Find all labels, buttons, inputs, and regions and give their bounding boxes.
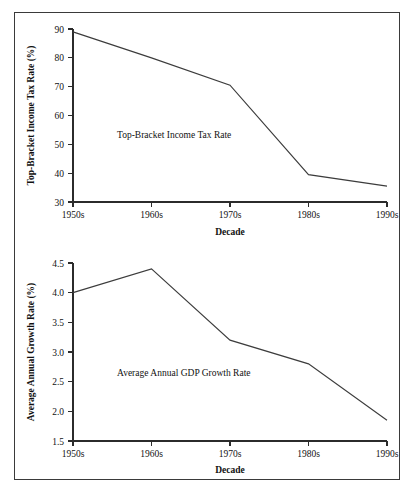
x-tick-label-top-4: 1990s xyxy=(376,210,399,220)
y-tick-label-top-2: 50 xyxy=(55,140,65,150)
y-axis-title-top: Top-Bracket Income Tax Rate (%) xyxy=(26,45,37,185)
data-series-average-annual-gdp-growth-rate xyxy=(73,269,387,420)
x-tick-label-bottom-4: 1990s xyxy=(376,449,399,459)
x-tick-label-top-0: 1950s xyxy=(62,210,85,220)
y-tick-label-top-5: 80 xyxy=(55,53,65,63)
y-tick-label-top-4: 70 xyxy=(55,82,65,92)
chart-top-svg: 90 80 70 60 50 40 30 1950s 1960s 19 xyxy=(15,13,401,247)
x-tick-label-top-3: 1980s xyxy=(297,210,320,220)
y-ticks-top xyxy=(68,29,73,202)
y-tick-label-top-0: 30 xyxy=(55,198,65,208)
chart-average-annual-gdp-growth-rate: 4.5 4.0 3.5 3.0 2.5 2.0 1.5 1950s 1960s xyxy=(15,247,401,479)
x-ticks-bottom xyxy=(73,441,387,446)
x-axis-title-top: Decade xyxy=(215,227,245,237)
y-tick-label-bottom-3: 3.0 xyxy=(52,348,64,358)
y-tick-label-top-3: 60 xyxy=(55,111,65,121)
y-tick-label-bottom-5: 4.0 xyxy=(52,288,64,298)
x-tick-label-bottom-0: 1950s xyxy=(62,449,85,459)
x-axis-title-bottom: Decade xyxy=(215,465,245,475)
series-annotation-top: Top-Bracket Income Tax Rate xyxy=(117,130,231,140)
x-tick-label-bottom-3: 1980s xyxy=(297,449,320,459)
x-tick-label-bottom-1: 1960s xyxy=(140,449,163,459)
x-tick-label-top-1: 1960s xyxy=(140,210,163,220)
series-annotation-bottom: Average Annual GDP Growth Rate xyxy=(117,368,251,378)
y-tick-label-bottom-2: 2.5 xyxy=(52,377,64,387)
y-tick-label-bottom-1: 2.0 xyxy=(52,407,64,417)
y-tick-label-bottom-4: 3.5 xyxy=(52,318,64,328)
x-tick-label-top-2: 1970s xyxy=(219,210,242,220)
figure-frame: 90 80 70 60 50 40 30 1950s 1960s 19 xyxy=(14,12,400,480)
data-series-top-bracket-income-tax-rate xyxy=(73,32,387,186)
y-tick-label-bottom-0: 1.5 xyxy=(52,437,64,447)
x-tick-label-bottom-2: 1970s xyxy=(219,449,242,459)
y-tick-label-bottom-6: 4.5 xyxy=(52,259,64,269)
x-ticks-top xyxy=(73,202,387,207)
y-ticks-bottom xyxy=(68,263,73,441)
figure-page: 90 80 70 60 50 40 30 1950s 1960s 19 xyxy=(0,0,415,494)
y-axis-title-bottom: Average Annual Growth Rate (%) xyxy=(26,283,37,421)
y-tick-label-top-6: 90 xyxy=(55,25,65,35)
chart-top-bracket-income-tax-rate: 90 80 70 60 50 40 30 1950s 1960s 19 xyxy=(15,13,401,247)
chart-bottom-svg: 4.5 4.0 3.5 3.0 2.5 2.0 1.5 1950s 1960s xyxy=(15,247,401,479)
y-tick-label-top-1: 40 xyxy=(55,169,65,179)
